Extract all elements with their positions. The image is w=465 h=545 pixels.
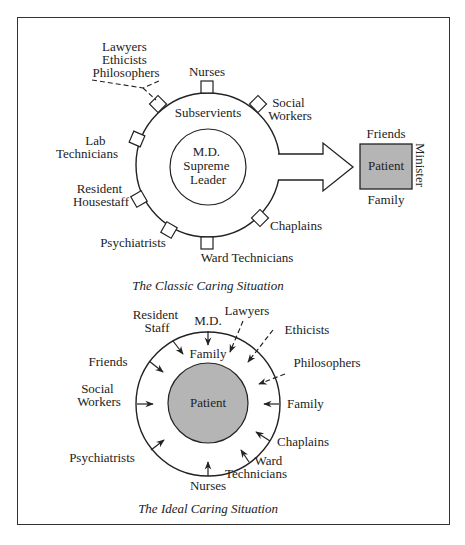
label-psychiatrists: Psychiatrists	[100, 235, 166, 250]
big-arrow	[278, 143, 353, 191]
label-technicians: Technicians	[56, 146, 118, 161]
label-psychiatrists: Psychiatrists	[69, 450, 135, 465]
label-chaplains: Chaplains	[270, 218, 322, 233]
label-ward-technicians: Ward Technicians	[201, 250, 294, 265]
label-supreme: Supreme	[183, 158, 229, 173]
patient-box-label: Patient	[368, 158, 404, 173]
label-technicians: Technicians	[225, 466, 287, 481]
svg-text:Resident Housestaff: Resident Housestaff	[73, 181, 130, 209]
svg-text:M.D. Supreme Leade: M.D. Supreme Leader	[183, 144, 232, 187]
label-nurses: Nurses	[189, 64, 225, 79]
label-subservients: Subservients	[175, 105, 241, 120]
label-chaplains: Chaplains	[277, 434, 329, 449]
label-family: Family	[287, 396, 324, 411]
label-md: M.D.	[193, 144, 220, 159]
svg-text:Social Workers: Social Workers	[77, 381, 121, 409]
svg-text:Resident Staff: Resident Staff	[133, 307, 182, 335]
ideal-family-inner: Family	[190, 346, 227, 361]
svg-text:Lawyers Ethicists: Lawyers Ethicists Philosophers	[92, 39, 159, 80]
label-philosophers: Philosophers	[92, 65, 159, 80]
label-friends: Friends	[367, 126, 406, 141]
svg-text:Lab Technicians: Lab Technicians	[56, 133, 118, 161]
label-philosophers: Philosophers	[293, 355, 360, 370]
label-workers: Workers	[268, 108, 312, 123]
lawyers-dashed-line	[92, 80, 161, 100]
label-nurses: Nurses	[190, 478, 226, 493]
label-friends: Friends	[89, 354, 128, 369]
classic-caption: The Classic Caring Situation	[132, 278, 283, 293]
label-md: M.D.	[194, 313, 221, 328]
label-lawyers: Lawyers	[225, 303, 270, 318]
label-minister: Minister	[413, 143, 428, 188]
label-housestaff: Housestaff	[73, 194, 130, 209]
caring-diagrams: Lawyers Ethicists Philosophers Nurses So…	[0, 0, 465, 545]
ideal-patient-label: Patient	[190, 395, 226, 410]
svg-text:Ward Technicians: Ward Technicians	[225, 453, 287, 481]
label-staff: Staff	[144, 320, 170, 335]
label-workers: Workers	[77, 394, 121, 409]
classic-diagram: Lawyers Ethicists Philosophers Nurses So…	[56, 39, 428, 293]
ideal-caption: The Ideal Caring Situation	[138, 501, 278, 516]
label-ethicists: Ethicists	[285, 322, 330, 337]
label-leader: Leader	[190, 172, 227, 187]
svg-text:Social Workers: Social Workers	[268, 95, 312, 123]
label-family: Family	[368, 192, 405, 207]
ideal-diagram: Patient Family Resident Staff M.D. Lawye…	[69, 303, 360, 516]
